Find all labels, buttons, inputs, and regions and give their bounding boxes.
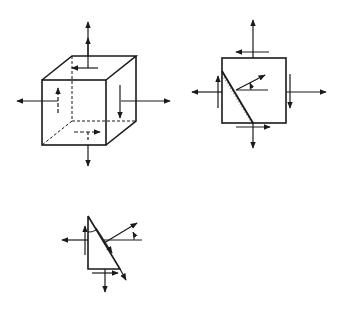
inner-angle-arc: [88, 230, 96, 232]
outer-angle-arc: [133, 232, 134, 240]
tangent-t-arrow: [120, 269, 126, 280]
section-ef: [222, 71, 253, 123]
panel-b: [192, 20, 326, 148]
stress-element-diagram: [0, 0, 343, 332]
panel-c: [62, 216, 142, 292]
cube-front-face: [42, 80, 106, 145]
panel-a: [17, 22, 170, 166]
cube-hidden-edge: [42, 121, 72, 145]
normal-n-arrow: [236, 75, 265, 90]
angle-arc: [250, 83, 251, 90]
